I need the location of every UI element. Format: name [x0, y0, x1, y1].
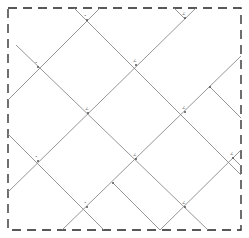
node-angle-mark: • — [35, 154, 37, 159]
intersection-dot — [86, 206, 88, 208]
intersection-nodes: •∠•∠∠∠••∠∠∠ — [35, 11, 234, 208]
node-angle-mark: • — [84, 200, 86, 205]
diagonal-lattice-diagram: •∠•∠∠∠••∠∠∠ — [0, 0, 249, 238]
node-angle-mark: ∠ — [133, 58, 137, 63]
lattice-line — [62, 56, 241, 230]
intersection-dot — [112, 182, 114, 184]
lattice-line — [8, 134, 104, 230]
intersection-dot — [184, 206, 186, 208]
intersection-dot — [184, 111, 186, 113]
lattice-line — [113, 183, 160, 230]
intersection-dot — [232, 157, 234, 159]
node-angle-mark: ∠ — [182, 200, 186, 205]
intersection-dot — [37, 160, 39, 162]
intersection-dot — [86, 19, 88, 21]
node-angle-mark: • — [35, 60, 37, 65]
intersection-dot — [37, 66, 39, 68]
lattice-line — [74, 8, 241, 175]
lattice-line — [16, 45, 208, 230]
node-angle-mark: ∠ — [182, 11, 186, 16]
intersection-dot — [184, 17, 186, 19]
dashed-border — [8, 8, 241, 230]
node-angle-mark: ∠ — [182, 105, 186, 110]
lattice-line — [233, 158, 241, 166]
node-angle-mark: ∠ — [133, 152, 137, 157]
node-angle-mark: ∠ — [85, 106, 89, 111]
intersection-dot — [135, 64, 137, 66]
intersection-dot — [135, 158, 137, 160]
lattice-line — [160, 150, 241, 230]
intersection-dot — [209, 86, 211, 88]
lattice-line — [8, 8, 100, 100]
lattice-lines — [8, 8, 241, 230]
node-angle-mark: ∠ — [230, 151, 234, 156]
node-angle-mark: • — [84, 13, 86, 18]
intersection-dot — [87, 112, 89, 114]
lattice-line — [210, 87, 241, 118]
